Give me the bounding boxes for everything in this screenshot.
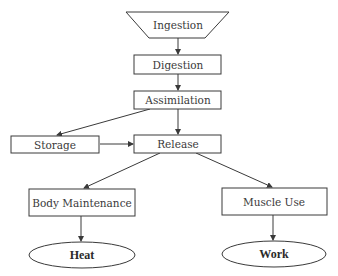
node-storage: Storage — [11, 136, 99, 153]
storage-label: Storage — [34, 139, 76, 151]
edge-assimilation-storage — [57, 109, 150, 135]
node-assimilation: Assimilation — [134, 91, 221, 109]
node-release: Release — [134, 135, 221, 153]
edge-release-body-maintenance — [84, 153, 160, 188]
muscle-use-label: Muscle Use — [243, 196, 305, 208]
node-muscle-use: Muscle Use — [222, 188, 327, 215]
heat-label: Heat — [70, 248, 95, 262]
node-body-maintenance: Body Maintenance — [29, 189, 135, 216]
node-ingestion: Ingestion — [126, 12, 229, 38]
release-label: Release — [157, 138, 199, 150]
edge-release-muscle-use — [196, 153, 272, 187]
assimilation-label: Assimilation — [144, 94, 211, 106]
flow-diagram: Ingestion Digestion Assimilation Storage… — [0, 0, 338, 276]
work-label: Work — [259, 247, 289, 261]
digestion-label: Digestion — [153, 59, 204, 71]
node-heat: Heat — [29, 242, 135, 268]
ingestion-label: Ingestion — [153, 19, 203, 31]
node-work: Work — [222, 241, 326, 267]
node-digestion: Digestion — [134, 55, 221, 74]
body-maintenance-label: Body Maintenance — [32, 197, 131, 209]
